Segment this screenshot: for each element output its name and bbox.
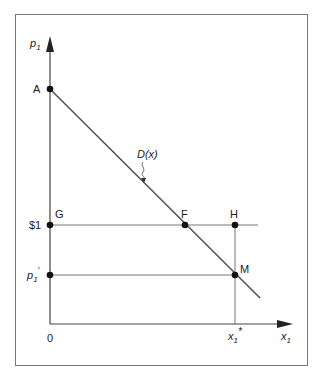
figure-frame [16, 15, 308, 366]
demand-curve [50, 89, 260, 298]
y-axis-label: p1 [29, 37, 41, 52]
label-h: H [230, 208, 238, 220]
point-h [232, 222, 239, 229]
label-m: M [240, 263, 249, 275]
point-f [182, 222, 189, 229]
curve-label: D(x) [137, 148, 158, 160]
tick-p1-prime: p1′ [26, 265, 40, 284]
tick-x1-star: x1* [227, 326, 243, 345]
point-p1-prime [47, 272, 54, 279]
y-axis-arrow-icon [46, 36, 54, 52]
x-axis-arrow-icon [277, 320, 293, 328]
point-g [47, 222, 54, 229]
label-f: F [181, 208, 188, 220]
point-a [47, 86, 54, 93]
origin-label: 0 [47, 332, 53, 344]
curve-label-leader [142, 162, 144, 180]
demand-diagram: p1 A G F H M D(x) $1 p1′ 0 x1* x1 [0, 0, 320, 376]
tick-dollar-one: $1 [29, 219, 41, 231]
label-g: G [55, 208, 64, 220]
label-a: A [33, 83, 41, 95]
x-axis-label: x1 [280, 330, 291, 345]
point-m [232, 272, 239, 279]
